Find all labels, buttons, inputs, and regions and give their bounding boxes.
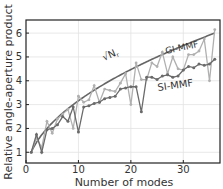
- x-tick-label: 0: [23, 164, 29, 175]
- x-tick-label: 20: [124, 164, 137, 175]
- sqrt-annotation: √Nr: [100, 46, 120, 64]
- y-tick-label: 6: [16, 28, 22, 39]
- y-tick-label: 3: [16, 99, 22, 110]
- x-axis-ticks: 0102030: [23, 160, 190, 175]
- y-tick-label: 5: [16, 51, 22, 62]
- x-tick-label: 10: [72, 164, 85, 175]
- y-tick-label: 1: [16, 147, 22, 158]
- y-tick-label: 4: [16, 75, 22, 86]
- y-axis-label: Relative angle-aperture product: [2, 4, 15, 180]
- x-tick-label: 30: [177, 164, 190, 175]
- si-mmf-annotation: SI-MMF: [157, 77, 194, 93]
- y-axis-ticks: 123456: [16, 28, 29, 158]
- chart: 0102030 123456 Number of modes Relative …: [0, 0, 223, 189]
- y-tick-label: 2: [16, 123, 22, 134]
- x-axis-label: Number of modes: [75, 176, 174, 189]
- si-mmf-series: [30, 58, 217, 154]
